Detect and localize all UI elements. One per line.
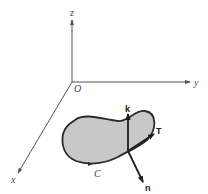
diagram-canvas: z y x O C k T n: [0, 0, 208, 194]
origin-label: O: [74, 83, 81, 94]
k-vector-label: k: [125, 104, 131, 114]
n-vector-label: n: [145, 183, 151, 193]
y-axis-label: y: [193, 77, 199, 88]
curve-label: C: [94, 168, 101, 179]
t-vector-label: T: [156, 126, 162, 136]
surface-region: [62, 111, 154, 164]
x-axis: [18, 82, 72, 173]
x-axis-label: x: [10, 174, 16, 185]
n-vector: [128, 151, 143, 182]
z-axis-label: z: [69, 7, 74, 18]
